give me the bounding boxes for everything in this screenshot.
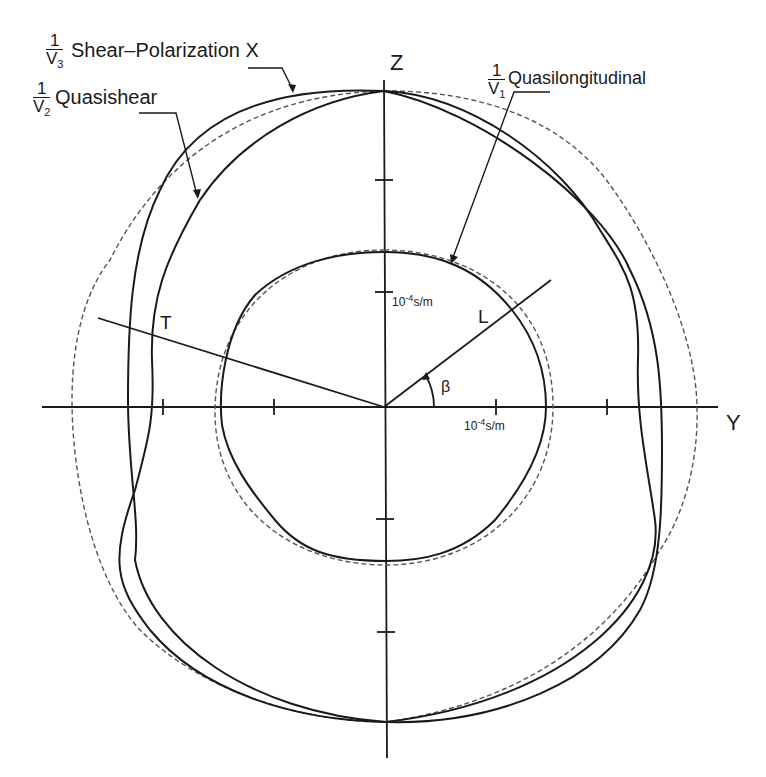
ray-L-label: L — [478, 306, 489, 328]
v2-den-letter: V — [33, 97, 44, 116]
v2-num: 1 — [33, 80, 50, 98]
axes — [42, 80, 718, 758]
leader-v1 — [452, 92, 550, 260]
z-scale-label: 10-4s/m — [392, 293, 433, 309]
v1-den-sub: 1 — [499, 88, 505, 100]
v3-den-letter: V — [46, 49, 57, 68]
z-scale-unit: s/m — [413, 295, 432, 309]
ray-T-label: T — [160, 312, 172, 334]
leader-v3-arrow — [288, 84, 296, 93]
v1-fraction: 1 V1 — [488, 62, 505, 103]
y-scale-unit: s/m — [485, 419, 504, 433]
leader-v2-arrow — [193, 189, 201, 199]
v1-den: V1 — [488, 80, 505, 103]
leader-v2 — [139, 113, 197, 195]
quasilongitudinal-label: Quasilongitudinal — [508, 68, 646, 89]
z-scale-base: 10 — [392, 295, 405, 309]
v3-num: 1 — [46, 32, 63, 50]
y-scale-base: 10 — [464, 419, 477, 433]
v3-den: V3 — [46, 50, 63, 73]
v2-den-sub: 2 — [44, 106, 50, 118]
v2-den: V2 — [33, 98, 50, 121]
v1-num: 1 — [488, 62, 505, 80]
slowness-diagram — [0, 0, 766, 777]
y-scale-label: 10-4s/m — [464, 417, 505, 433]
beta-arc — [426, 376, 434, 407]
beta-angle-label: β — [441, 378, 450, 396]
v3-den-sub: 3 — [57, 58, 63, 70]
leader-v3 — [248, 68, 293, 90]
v2-fraction: 1 V2 — [33, 80, 50, 121]
v1-den-letter: V — [488, 79, 499, 98]
z-axis — [384, 80, 387, 758]
quasishear-label: Quasishear — [55, 86, 157, 109]
y-axis-label: Y — [726, 410, 741, 436]
z-axis-label: Z — [390, 50, 403, 76]
v3-fraction: 1 V3 — [46, 32, 63, 73]
shear-polarization-x-label: Shear–Polarization X — [71, 39, 259, 62]
rays — [98, 280, 551, 407]
ray-T — [98, 318, 384, 407]
